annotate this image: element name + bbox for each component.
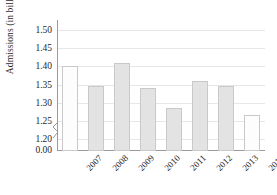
y-axis-tick-label: 1.30: [35, 98, 52, 108]
x-axis-tick-label: 2007: [84, 153, 104, 173]
bar[interactable]: [244, 115, 260, 151]
bar[interactable]: [192, 81, 208, 151]
bar[interactable]: [166, 108, 182, 151]
y-axis-tick-label: 1.40: [35, 61, 52, 71]
bar-chart: Admissions (in billions) 1.501.451.401.3…: [0, 0, 277, 195]
y-axis-tick-label: 0.00: [35, 145, 52, 155]
plot-area: [57, 20, 265, 151]
x-axis-tick-label: 2012: [214, 153, 234, 173]
bar[interactable]: [114, 63, 130, 151]
x-axis-tick-label: 2013: [240, 153, 260, 173]
y-axis-tick-label: 1.45: [35, 43, 52, 53]
y-axis-tick-label: 1.35: [35, 80, 52, 90]
x-axis-tick-label: 2014: [266, 153, 277, 173]
x-axis-tick-labels: 20072008200920102011201220132014: [57, 153, 265, 195]
bar[interactable]: [62, 66, 78, 151]
bar[interactable]: [140, 88, 156, 151]
y-axis-tick-labels: 1.501.451.401.351.301.251.200.00: [0, 0, 55, 195]
bar-series: [57, 20, 265, 151]
x-axis-tick-label: 2010: [162, 153, 182, 173]
x-axis-tick-label: 2011: [188, 153, 208, 173]
x-axis-tick-label: 2009: [136, 153, 156, 173]
bar[interactable]: [218, 86, 234, 151]
bar[interactable]: [88, 86, 104, 151]
x-axis-tick-label: 2008: [110, 153, 130, 173]
y-axis-tick-label: 1.50: [35, 25, 52, 35]
